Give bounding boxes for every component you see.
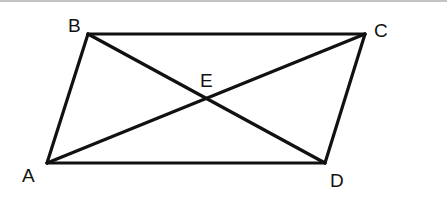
segments-group bbox=[47, 34, 365, 163]
vertex-label-d: D bbox=[330, 170, 344, 191]
vertex-label-b: B bbox=[68, 15, 81, 36]
intersection-label-e: E bbox=[200, 70, 213, 91]
parallelogram-diagram: A B C D E bbox=[0, 0, 447, 199]
segment-ab bbox=[47, 34, 88, 163]
segment-bd bbox=[88, 34, 325, 163]
vertex-label-a: A bbox=[22, 165, 35, 186]
vertex-label-c: C bbox=[374, 20, 388, 41]
segment-cd bbox=[325, 34, 365, 163]
